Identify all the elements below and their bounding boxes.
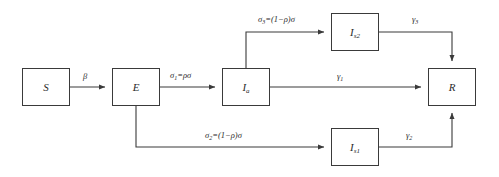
edge-label-sigma1: σ1=ρσ: [170, 71, 191, 80]
node-exposed: E: [112, 68, 160, 106]
edge-is2-to-r: [379, 32, 452, 61]
node-label-r: R: [449, 82, 456, 93]
edge-e-to-is1: [136, 106, 324, 147]
node-infected-symptomatic-1: Is1: [331, 128, 379, 166]
node-label-ia: Ia: [242, 82, 249, 93]
node-infected-symptomatic-2: Is2: [331, 13, 379, 51]
node-infected-asymptomatic: Ia: [222, 68, 270, 106]
edge-label-gamma2: γ2: [406, 131, 412, 140]
edge-is1-to-r: [379, 113, 452, 147]
node-label-is1: Is1: [350, 142, 360, 153]
node-susceptible: S: [22, 68, 70, 106]
edge-label-sigma3: σ3=(1−ρ)σ: [258, 15, 295, 24]
edge-label-beta: β: [83, 72, 87, 81]
node-recovered: R: [428, 68, 476, 106]
edge-label-gamma1: γ1: [337, 72, 343, 81]
edge-label-gamma3: γ3: [412, 15, 418, 24]
node-label-is2: Is2: [350, 27, 360, 38]
edge-label-sigma2: σ2=(1−ρ)σ: [205, 131, 242, 140]
node-label-s: S: [43, 82, 49, 93]
seir-flow-diagram: S E Ia Is2 Is1 R β σ1=ρσ σ3=(1−ρ)σ σ2=(1…: [0, 0, 499, 177]
edge-ia-to-is2: [246, 32, 324, 68]
node-label-e: E: [133, 82, 140, 93]
